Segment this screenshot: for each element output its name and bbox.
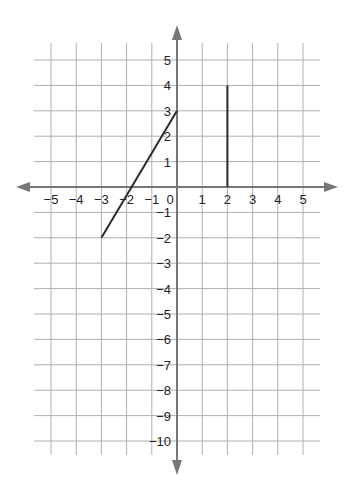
x-axis-right-arrow-icon: [324, 182, 338, 192]
y-tick-label: −8: [156, 383, 171, 398]
x-axis-left-arrow-icon: [16, 182, 30, 192]
x-tick-label: −3: [94, 192, 109, 207]
y-tick-label: −4: [156, 282, 171, 297]
coordinate-plane: −5−4−3−2−1012345 54321−1−2−3−4−5−6−7−8−9…: [0, 0, 359, 495]
y-tick-label: −2: [156, 231, 171, 246]
y-tick-label: 3: [164, 104, 171, 119]
y-tick-label: −1: [156, 205, 171, 220]
x-tick-label: 2: [224, 192, 231, 207]
y-tick-label: −3: [156, 256, 171, 271]
y-tick-label: −10: [149, 434, 171, 449]
y-tick-label: −5: [156, 307, 171, 322]
x-tick-label: 5: [299, 192, 306, 207]
y-tick-label: 1: [164, 155, 171, 170]
y-tick-label: 4: [164, 78, 171, 93]
x-tick-label: 3: [249, 192, 256, 207]
y-axis-up-arrow-icon: [172, 25, 182, 40]
y-tick-label: −6: [156, 332, 171, 347]
y-tick-label: −9: [156, 409, 171, 424]
x-tick-label: 4: [274, 192, 281, 207]
x-axis-tick-labels: −5−4−3−2−1012345: [44, 192, 307, 207]
x-tick-label: −5: [44, 192, 59, 207]
axes: [16, 25, 338, 475]
x-tick-label: 1: [199, 192, 206, 207]
y-tick-label: −7: [156, 358, 171, 373]
y-axis-down-arrow-icon: [172, 460, 182, 475]
y-tick-label: 5: [164, 53, 171, 68]
x-tick-label: −4: [69, 192, 84, 207]
